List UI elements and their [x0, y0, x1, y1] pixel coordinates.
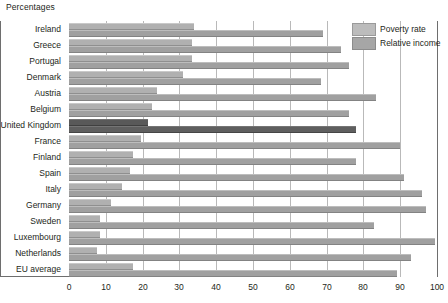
x-axis-tick-60: 60 — [285, 281, 294, 293]
x-axis-tick-10: 10 — [101, 281, 110, 293]
bar-poverty-rate-austria — [69, 87, 157, 94]
gridline-100 — [437, 21, 438, 277]
y-axis-label-spain: Spain — [39, 165, 61, 181]
legend-label-relative-income: Relative income — [380, 38, 440, 49]
bar-poverty-rate-belgium — [69, 103, 152, 110]
bar-relative-income-greece — [69, 46, 341, 53]
bar-group-denmark — [69, 69, 437, 85]
bar-poverty-rate-greece — [69, 39, 192, 46]
bar-poverty-rate-italy — [69, 183, 122, 190]
y-axis-label-germany: Germany — [26, 197, 61, 213]
y-axis-line — [0, 21, 1, 277]
bar-group-finland — [69, 149, 437, 165]
bar-group-spain — [69, 165, 437, 181]
bar-group-belgium — [69, 101, 437, 117]
bar-poverty-rate-eu-average — [69, 263, 133, 270]
bar-poverty-rate-netherlands — [69, 247, 97, 254]
y-axis-label-eu-average: EU average — [16, 261, 61, 277]
bar-poverty-rate-germany — [69, 199, 111, 206]
bar-poverty-rate-spain — [69, 167, 130, 174]
bar-relative-income-belgium — [69, 110, 349, 117]
x-axis-tick-labels: 0102030405060708090100 — [69, 281, 448, 297]
y-axis-label-ireland: Ireland — [35, 21, 61, 37]
y-axis-label-greece: Greece — [33, 37, 61, 53]
x-axis-tick-80: 80 — [358, 281, 367, 293]
bar-poverty-rate-ireland — [69, 23, 194, 30]
bar-group-united-kingdom — [69, 117, 437, 133]
legend-label-poverty-rate: Poverty rate — [380, 24, 426, 35]
y-axis-label-italy: Italy — [45, 181, 61, 197]
bar-group-germany — [69, 197, 437, 213]
bar-relative-income-spain — [69, 174, 404, 181]
bar-poverty-rate-portugal — [69, 55, 192, 62]
bar-relative-income-portugal — [69, 62, 349, 69]
legend-swatch-icon — [352, 23, 376, 36]
y-axis-label-denmark: Denmark — [27, 69, 61, 85]
y-axis-label-netherlands: Netherlands — [15, 245, 61, 261]
x-axis-tick-90: 90 — [395, 281, 404, 293]
bar-relative-income-united-kingdom — [69, 126, 356, 133]
bar-poverty-rate-denmark — [69, 71, 183, 78]
x-axis-tick-0: 0 — [67, 281, 72, 293]
x-axis-tick-70: 70 — [322, 281, 331, 293]
x-axis-tick-40: 40 — [211, 281, 220, 293]
y-axis-label-belgium: Belgium — [30, 101, 61, 117]
x-axis-tick-30: 30 — [174, 281, 183, 293]
bar-relative-income-finland — [69, 158, 356, 165]
bar-group-france — [69, 133, 437, 149]
y-axis-label-finland: Finland — [33, 149, 61, 165]
bar-poverty-rate-finland — [69, 151, 133, 158]
y-axis-label-luxembourg: Luxembourg — [14, 229, 61, 245]
y-axis-label-portugal: Portugal — [29, 53, 61, 69]
plot-area — [69, 21, 437, 277]
y-axis-label-austria: Austria — [35, 85, 61, 101]
bar-poverty-rate-luxembourg — [69, 231, 100, 238]
bar-group-sweden — [69, 213, 437, 229]
bar-relative-income-denmark — [69, 78, 321, 85]
bar-relative-income-france — [69, 142, 400, 149]
bar-relative-income-austria — [69, 94, 376, 101]
legend-swatch-icon — [352, 37, 376, 50]
bar-relative-income-netherlands — [69, 254, 411, 261]
bar-chart: Percentages IrelandGreecePortugalDenmark… — [0, 0, 448, 303]
bar-group-austria — [69, 85, 437, 101]
bar-group-italy — [69, 181, 437, 197]
bar-relative-income-germany — [69, 206, 426, 213]
x-axis-tick-50: 50 — [248, 281, 257, 293]
bar-relative-income-eu-average — [69, 270, 397, 277]
bar-poverty-rate-france — [69, 135, 141, 142]
bar-relative-income-sweden — [69, 222, 374, 229]
y-axis-label-united-kingdom: United Kingdom — [1, 117, 61, 133]
bar-poverty-rate-sweden — [69, 215, 100, 222]
bar-group-eu-average — [69, 261, 437, 277]
bar-relative-income-ireland — [69, 30, 323, 37]
bar-group-luxembourg — [69, 229, 437, 245]
y-axis-label-france: France — [35, 133, 61, 149]
x-axis-tick-100: 100 — [430, 281, 444, 293]
bar-relative-income-luxembourg — [69, 238, 435, 245]
chart-legend: Poverty rateRelative income — [352, 23, 448, 51]
unit-label: Percentages — [6, 2, 55, 12]
bar-poverty-rate-united-kingdom — [69, 119, 148, 126]
y-axis-label-sweden: Sweden — [30, 213, 61, 229]
x-axis-tick-20: 20 — [138, 281, 147, 293]
bar-relative-income-italy — [69, 190, 422, 197]
y-axis-category-labels: IrelandGreecePortugalDenmarkAustriaBelgi… — [0, 21, 65, 277]
bar-group-netherlands — [69, 245, 437, 261]
bar-group-portugal — [69, 53, 437, 69]
